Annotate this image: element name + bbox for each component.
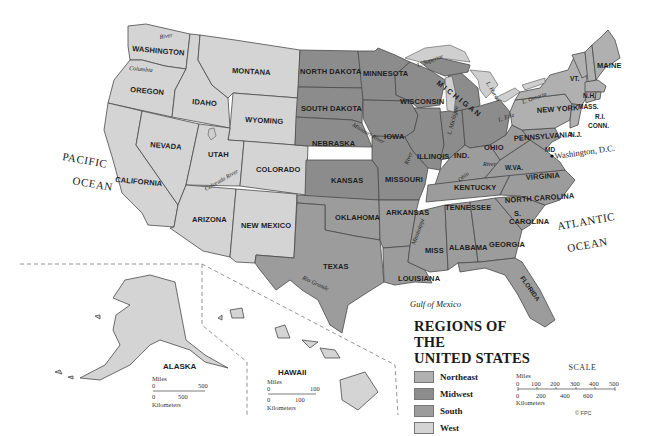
label-atlantic-2: OCEAN [566, 235, 608, 254]
label-massachusetts: MASS. [578, 103, 599, 110]
scale-km-tick-2: 400 [560, 392, 570, 399]
label-ohio: OHIO [484, 143, 504, 152]
legend-title-line1: REGIONS OF THE [414, 318, 534, 350]
hawaii-title: HAWAII [278, 368, 306, 377]
scale-km-label: Kilometers [516, 399, 545, 406]
label-indiana: IND. [454, 151, 469, 160]
copyright: © FPC [575, 410, 592, 416]
hawaii-miles-tick-0: 0 [267, 385, 270, 392]
scale-title: SCALE [525, 363, 640, 372]
label-minnesota: MINNESOTA [363, 69, 409, 78]
hawaii-miles-tick-1: 100 [310, 385, 320, 392]
alaska-title: ALASKA [163, 362, 197, 371]
label-louisiana: LOUISIANA [398, 274, 441, 283]
hawaii-miles-label: Miles [267, 378, 282, 385]
label-kentucky: KENTUCKY [454, 183, 496, 192]
label-iowa: IOWA [384, 132, 405, 141]
alaska-islands [55, 315, 100, 379]
state-maine [592, 30, 620, 80]
hawaii-km-tick-1: 100 [295, 396, 305, 403]
label-new-jersey: N.J. [570, 131, 582, 138]
label-west-virginia: W.VA. [505, 164, 523, 171]
label-s-carolina-2: CAROLINA [509, 217, 550, 226]
scale-km-tick-0: 0 [516, 392, 519, 399]
label-texas: TEXAS [323, 262, 349, 271]
label-colorado: COLORADO [256, 165, 301, 174]
label-pacific-2: OCEAN [72, 174, 114, 193]
scale-km-tick-1: 200 [536, 392, 546, 399]
alaska-miles-tick-0: 0 [152, 382, 155, 389]
scale-miles-tick-4: 400 [589, 380, 599, 387]
legend-swatch-west [414, 422, 434, 434]
label-missouri: MISSOURI [385, 175, 423, 184]
label-oklahoma: OKLAHOMA [335, 213, 380, 222]
label-arizona: ARIZONA [192, 215, 227, 224]
scale-graphic: Miles 0 100 200 300 400 500 0 200 400 60… [515, 372, 640, 414]
label-georgia: GEORGIA [489, 240, 526, 249]
label-connecticut: CONN. [588, 122, 609, 129]
label-vermont: VT. [570, 75, 580, 82]
label-south-dakota: SOUTH DAKOTA [301, 104, 363, 113]
label-atlantic-1: ATLANTIC [556, 210, 616, 232]
hawaii-km-label: Kilometers [267, 404, 296, 411]
scale-miles-tick-2: 200 [550, 380, 560, 387]
label-maine: MAINE [597, 61, 622, 70]
legend-item-west: West [414, 420, 534, 436]
hawaii-inset: HAWAII Miles 0 100 0 100 Kilometers [218, 308, 378, 411]
alaska-km-label: Kilometers [152, 401, 181, 408]
legend-swatch-south [414, 405, 434, 417]
label-wisconsin: WISCONSIN [400, 97, 444, 106]
state-massachusetts [585, 80, 606, 92]
label-alabama: ALABAMA [449, 243, 488, 252]
label-north-dakota: NORTH DAKOTA [300, 67, 362, 76]
scale-miles-tick-3: 300 [570, 380, 580, 387]
label-pacific-1: PACIFIC [62, 150, 109, 170]
scale-miles-tick-0: 0 [516, 380, 519, 387]
label-tennessee: TENNESSEE [445, 203, 491, 212]
legend-label-south: South [440, 406, 463, 416]
dc-marker [550, 154, 553, 157]
state-florida [458, 258, 555, 327]
alaska-miles-label: Miles [152, 375, 167, 382]
scale-miles-label: Miles [516, 372, 531, 379]
label-illinois: ILLINOIS [417, 152, 449, 161]
hawaii-km-tick-0: 0 [267, 396, 270, 403]
label-river-ohio-2: River [482, 161, 497, 167]
alaska-km-tick-0: 0 [152, 393, 155, 400]
hawaii-islands [218, 308, 378, 410]
label-gulf-of-mexico: Gulf of Mexico [410, 299, 461, 309]
label-mississippi: MISS [425, 246, 444, 255]
label-utah: UTAH [208, 150, 229, 159]
label-rhode-island: R.I. [595, 113, 605, 120]
label-new-hampshire: N.H. [583, 92, 596, 99]
legend-label-midwest: Midwest [440, 389, 473, 399]
alaska-miles-tick-1: 500 [198, 382, 208, 389]
legend-label-west: West [440, 423, 459, 433]
label-arkansas: ARKANSAS [386, 208, 429, 217]
label-washington-dc: Washington, D.C. [554, 143, 616, 161]
legend-label-northeast: Northeast [440, 372, 478, 382]
label-kansas: KANSAS [331, 176, 363, 185]
scale-km-tick-3: 600 [583, 392, 593, 399]
label-nebraska: NEBRASKA [312, 139, 356, 148]
label-new-mexico: NEW MEXICO [241, 221, 291, 230]
legend-swatch-northeast [414, 371, 434, 383]
alaska-km-tick-1: 500 [178, 393, 188, 400]
legend-swatch-midwest [414, 388, 434, 400]
scale-miles-tick-1: 100 [531, 380, 541, 387]
state-alaska [80, 275, 228, 380]
scale-miles-tick-5: 500 [609, 380, 619, 387]
